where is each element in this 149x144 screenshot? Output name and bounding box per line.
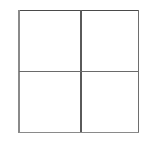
cell-bottom-right [82,72,138,132]
two-by-two-grid-diagram [0,0,149,144]
figure-canvas [0,0,149,144]
cell-top-left [20,11,81,71]
cell-bottom-left [20,72,81,132]
cell-top-right [82,11,138,71]
